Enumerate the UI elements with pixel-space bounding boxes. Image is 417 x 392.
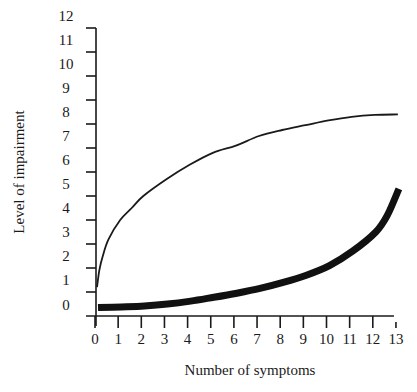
x-tick-label: 6 [230,331,238,347]
y-axis: 0123456789101112 [59,8,97,326]
x-tick-label: 1 [114,331,122,347]
y-tick-label: 0 [62,297,70,313]
y-tick-label: 1 [62,272,70,288]
y-tick-label: 8 [62,104,70,120]
y-tick-label: 9 [62,80,70,96]
x-tick-label: 13 [388,331,403,347]
y-tick-label: 5 [62,176,70,192]
x-axis: 012345678910111213 [86,316,403,347]
x-tick-label: 7 [253,331,261,347]
series-layer [97,114,399,307]
series-thick-curve [98,189,399,308]
y-axis-title: Level of impairment [11,110,27,234]
x-tick-label: 3 [161,331,169,347]
y-tick-label: 6 [62,152,70,168]
x-axis-title: Number of symptoms [185,362,316,378]
y-tick-label: 7 [62,128,70,144]
series-thin-curve [97,114,398,287]
x-tick-label: 5 [207,331,215,347]
chart: 0123456789101112 012345678910111213 Numb… [0,0,417,392]
x-tick-label: 2 [138,331,146,347]
x-tick-label: 11 [342,331,356,347]
x-tick-label: 4 [184,331,192,347]
y-tick-label: 11 [59,32,73,48]
y-tick-label: 4 [62,200,70,216]
x-tick-label: 12 [365,331,380,347]
x-tick-label: 0 [91,331,99,347]
x-tick-label: 10 [319,331,334,347]
y-tick-label: 3 [62,224,70,240]
y-tick-label: 10 [59,56,74,72]
y-tick-label: 2 [62,248,70,264]
x-tick-label: 8 [276,331,284,347]
y-tick-label: 12 [59,8,74,24]
x-tick-label: 9 [300,331,308,347]
